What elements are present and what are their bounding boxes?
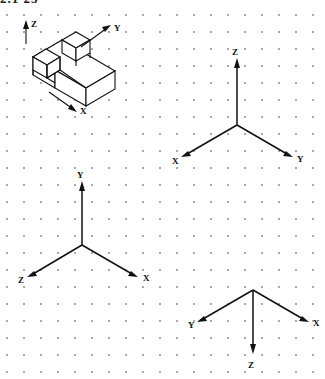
axes-br-x: X (253, 290, 320, 328)
drawing-page: 2.1 23 (0, 0, 325, 379)
axes-br-z-label: Z (248, 360, 254, 370)
axes-br-y-label: Y (188, 320, 195, 330)
figure-axes-bottom-right: Z Y X (0, 0, 325, 379)
axes-br-x-label: X (313, 318, 320, 328)
axes-br-y: Y (188, 290, 253, 330)
axes-br-z-arrowhead (250, 344, 256, 354)
axes-br-z: Z (248, 290, 256, 370)
